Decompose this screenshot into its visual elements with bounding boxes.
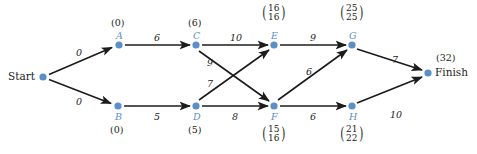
edge-weight-c-f: 9 — [207, 58, 213, 68]
node-value-h: ( 21 22 ) — [339, 125, 364, 144]
node-value-c: (6) — [188, 18, 201, 28]
node-dot-c[interactable] — [192, 41, 199, 48]
edge-weight-g-finish: 7 — [392, 55, 398, 65]
node-value-b: (0) — [110, 125, 123, 135]
node-dot-start[interactable] — [39, 73, 46, 80]
node-value-e: ( 16 16 ) — [261, 4, 286, 23]
node-label-h: H — [349, 112, 357, 122]
paren-left-h: ( — [340, 127, 344, 141]
edge-weight-a-c: 6 — [154, 33, 160, 43]
node-dot-d[interactable] — [192, 102, 199, 109]
paren-right-h: ) — [359, 127, 363, 141]
node-label-a: A — [116, 31, 123, 41]
edge-weight-b-d: 5 — [154, 112, 160, 122]
edges-group — [49, 45, 422, 106]
node-label-c: C — [193, 31, 200, 41]
edge-weight-f-h: 6 — [310, 112, 316, 122]
node-value-d: (5) — [188, 125, 201, 135]
edge-weight-d-f: 8 — [232, 112, 238, 122]
node-dot-a[interactable] — [115, 41, 122, 48]
node-label-b: B — [115, 112, 122, 122]
paren-left-f: ( — [262, 127, 266, 141]
edge-weight-h-finish: 10 — [390, 110, 402, 120]
node-value-a: (0) — [111, 18, 124, 28]
node-dot-h[interactable] — [348, 102, 355, 109]
start-label: Start — [8, 71, 35, 82]
node-dot-finish[interactable] — [424, 69, 431, 76]
edge-weight-d-e: 7 — [207, 79, 213, 89]
node-value-h-bottom: 22 — [346, 134, 357, 143]
network-canvas — [0, 0, 477, 154]
finish-value: (32) — [436, 53, 456, 63]
node-label-g: G — [349, 31, 357, 41]
node-dot-f[interactable] — [270, 102, 277, 109]
node-dot-g[interactable] — [348, 41, 355, 48]
edge-weight-f-g: 6 — [306, 67, 312, 77]
activity-network-diagram: Start Finish (32) A B C D E F G H (0) (0… — [0, 0, 477, 154]
node-value-f-bottom: 16 — [268, 134, 279, 143]
paren-right-g: ) — [359, 6, 363, 20]
finish-label: Finish — [435, 67, 468, 78]
paren-right-e: ) — [281, 6, 285, 20]
node-value-e-bottom: 16 — [268, 13, 279, 22]
paren-right-f: ) — [281, 127, 285, 141]
edge-f-g — [278, 50, 347, 100]
node-label-d: D — [193, 112, 201, 122]
node-dot-e[interactable] — [270, 41, 277, 48]
paren-left-e: ( — [262, 6, 266, 20]
node-value-g: ( 25 25 ) — [339, 4, 364, 23]
edge-g-finish — [357, 49, 422, 70]
node-value-f: ( 15 16 ) — [261, 125, 286, 144]
paren-left-g: ( — [340, 6, 344, 20]
node-label-f: F — [271, 112, 278, 122]
edge-weight-c-e: 10 — [230, 33, 242, 43]
edge-weight-start-b: 0 — [76, 97, 82, 107]
node-label-e: E — [271, 31, 278, 41]
node-value-g-bottom: 25 — [346, 13, 357, 22]
edge-h-finish — [357, 77, 422, 103]
edge-weight-e-g: 9 — [310, 33, 316, 43]
node-dot-b[interactable] — [114, 102, 121, 109]
edge-weight-start-a: 0 — [76, 48, 82, 58]
